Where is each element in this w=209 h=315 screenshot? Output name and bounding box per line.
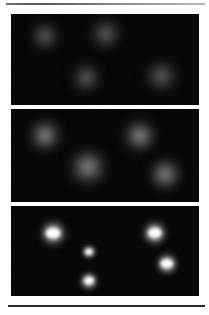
panel-bottom <box>11 206 199 296</box>
source-blob <box>131 151 199 198</box>
source-blob <box>11 112 79 159</box>
source-blob <box>25 214 81 252</box>
source-blob <box>49 140 128 194</box>
figure-root <box>0 0 209 315</box>
source-blob <box>70 14 141 58</box>
bottom-divider-rule <box>8 305 205 307</box>
source-blob <box>52 55 120 101</box>
source-blob <box>73 241 105 263</box>
source-blob <box>104 112 175 160</box>
panel-top <box>11 14 199 105</box>
detector-noise-texture <box>11 109 199 202</box>
panel-middle <box>11 109 199 202</box>
top-divider-rule <box>6 3 205 5</box>
source-blob <box>129 215 182 251</box>
detector-noise-texture <box>11 206 199 296</box>
detector-noise-texture <box>11 14 199 105</box>
source-blob <box>69 267 108 294</box>
source-blob <box>143 247 192 279</box>
source-blob <box>124 51 199 100</box>
source-blob <box>13 14 77 58</box>
